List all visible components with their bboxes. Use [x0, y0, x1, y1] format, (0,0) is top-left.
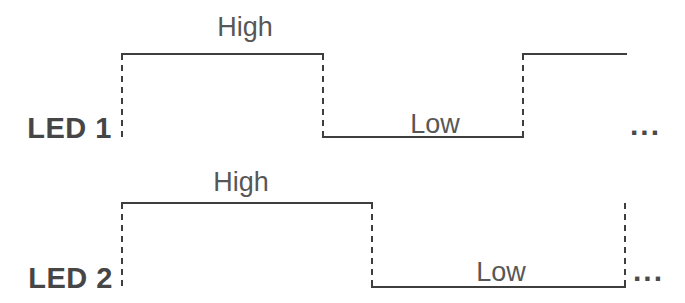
led1-continuation-dots: ...: [630, 110, 661, 140]
timing-diagram: LED 1 High Low ... LED 2 High Low ...: [0, 0, 685, 303]
led1-high-label: High: [217, 14, 273, 41]
led1-waveform: [121, 54, 627, 137]
led2-high-label: High: [213, 169, 269, 196]
led2-waveform: [121, 203, 626, 287]
led2-low-label: Low: [476, 259, 526, 286]
led2-signal-name: LED 2: [21, 264, 113, 293]
led1-low-label: Low: [410, 111, 460, 138]
led2-continuation-dots: ...: [633, 256, 664, 286]
waveform-lines: [0, 0, 685, 303]
led1-signal-name: LED 1: [20, 114, 112, 143]
